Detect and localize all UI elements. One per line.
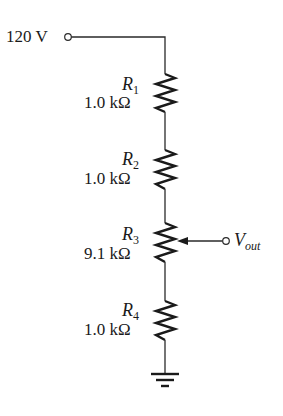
- vout-subscript: out: [245, 239, 260, 253]
- resistor-r1-icon: [156, 74, 175, 112]
- resistor-r4-icon: [156, 301, 175, 340]
- r4-value-label: 1.0 kΩ: [84, 321, 131, 338]
- r4-value: 1.0 kΩ: [84, 320, 131, 339]
- circuit-schematic: [0, 0, 283, 416]
- vout-name: V: [234, 230, 245, 250]
- r4-index: 4: [133, 309, 139, 323]
- r2-value-label: 1.0 kΩ: [84, 170, 131, 187]
- r1-value-label: 1.0 kΩ: [84, 94, 131, 111]
- vout-terminal-icon: [223, 238, 230, 245]
- r1-name: R: [122, 74, 133, 94]
- r3-name: R: [122, 224, 133, 244]
- resistor-r2-icon: [156, 150, 175, 189]
- source-voltage-label: 120 V: [6, 28, 48, 45]
- r4-name: R: [122, 300, 133, 320]
- source-voltage-text: 120 V: [6, 27, 48, 46]
- r3-index: 3: [133, 233, 139, 247]
- ground-icon: [151, 374, 179, 386]
- r2-index: 2: [133, 158, 139, 172]
- r2-name: R: [122, 149, 133, 169]
- r1-value: 1.0 kΩ: [84, 93, 131, 112]
- source-terminal-icon: [65, 34, 72, 41]
- r3-value: 9.1 kΩ: [84, 244, 131, 263]
- r1-index: 1: [133, 83, 139, 97]
- potentiometer-r3-icon: [156, 223, 175, 262]
- r2-value: 1.0 kΩ: [84, 169, 131, 188]
- top-wire: [71, 37, 165, 74]
- wiper-arrowhead-icon: [177, 237, 188, 245]
- r3-value-label: 9.1 kΩ: [84, 245, 131, 262]
- vout-label: Vout: [234, 232, 260, 255]
